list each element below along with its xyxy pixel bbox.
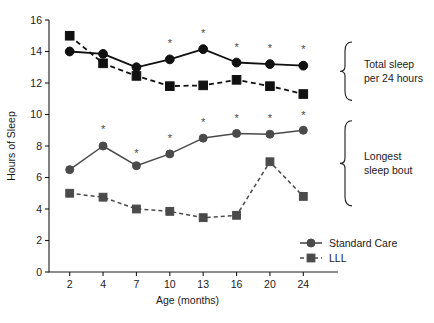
significance-asterisk: * bbox=[134, 147, 139, 159]
legend-item-lll: LLL bbox=[300, 252, 347, 264]
data-point-circle bbox=[307, 239, 315, 247]
longest-bout-brace bbox=[340, 121, 352, 206]
x-tick-label: 10 bbox=[164, 278, 176, 290]
significance-asterisk: * bbox=[301, 109, 306, 121]
data-point-circle bbox=[132, 162, 140, 170]
data-point-circle bbox=[65, 47, 74, 56]
data-point-circle bbox=[66, 166, 74, 174]
significance-asterisk: * bbox=[201, 116, 206, 128]
series-group-longest-bout bbox=[66, 126, 308, 221]
x-tick-label: 13 bbox=[197, 278, 209, 290]
x-tick-label: 20 bbox=[264, 278, 276, 290]
series-line-lll bbox=[70, 162, 304, 218]
y-tick-label: 12 bbox=[30, 77, 42, 89]
significance-asterisk: * bbox=[301, 43, 306, 55]
data-point-square bbox=[133, 205, 141, 213]
data-point-circle bbox=[233, 129, 241, 137]
data-point-square bbox=[199, 81, 208, 90]
total-sleep-label-line2: per 24 hours bbox=[364, 72, 423, 84]
total-sleep-brace bbox=[340, 42, 352, 100]
y-axis-title: Hours of Sleep bbox=[5, 111, 17, 181]
total-sleep-label-line1: Total sleep bbox=[364, 58, 414, 70]
y-tick-label: 10 bbox=[30, 108, 42, 120]
data-point-circle bbox=[166, 150, 174, 158]
data-point-square bbox=[65, 31, 74, 40]
data-point-square bbox=[233, 211, 241, 219]
data-point-circle bbox=[266, 130, 274, 138]
data-point-square bbox=[99, 193, 107, 201]
significance-asterisk: * bbox=[168, 132, 173, 144]
x-axis-title: Age (months) bbox=[156, 294, 219, 306]
x-tick-label: 16 bbox=[231, 278, 243, 290]
data-point-square bbox=[266, 158, 274, 166]
longest-bout-label-line1: Longest bbox=[364, 150, 401, 162]
y-tick-label: 8 bbox=[36, 140, 42, 152]
data-point-square bbox=[199, 214, 207, 222]
legend-item-standard-care: Standard Care bbox=[300, 237, 397, 249]
data-point-circle bbox=[299, 126, 307, 134]
significance-asterisk: * bbox=[168, 37, 173, 49]
data-point-circle bbox=[132, 63, 141, 72]
data-point-circle bbox=[99, 49, 108, 58]
data-point-circle bbox=[266, 60, 275, 69]
data-point-square bbox=[99, 59, 108, 68]
data-point-square bbox=[299, 193, 307, 201]
significance-asterisk: * bbox=[234, 41, 239, 53]
legend-label: LLL bbox=[329, 252, 347, 264]
data-point-square bbox=[66, 189, 74, 197]
y-tick-label: 4 bbox=[36, 203, 42, 215]
x-tick-label: 4 bbox=[100, 278, 106, 290]
data-point-square bbox=[166, 82, 175, 91]
x-tick-label: 24 bbox=[297, 278, 309, 290]
data-point-circle bbox=[165, 55, 174, 64]
y-tick-label: 14 bbox=[30, 45, 42, 57]
data-point-circle bbox=[99, 142, 107, 150]
significance-asterisk: * bbox=[101, 123, 106, 135]
data-point-square bbox=[307, 254, 315, 262]
data-point-circle bbox=[232, 58, 241, 67]
x-tick-label: 2 bbox=[67, 278, 73, 290]
data-point-square bbox=[166, 207, 174, 215]
data-point-square bbox=[299, 90, 308, 99]
legend-label: Standard Care bbox=[329, 237, 397, 249]
data-point-square bbox=[266, 82, 275, 91]
y-tick-label: 16 bbox=[30, 14, 42, 26]
data-point-square bbox=[132, 72, 141, 81]
data-point-square bbox=[232, 76, 241, 85]
longest-bout-label-line2: sleep bout bbox=[364, 164, 413, 176]
significance-asterisk: * bbox=[234, 112, 239, 124]
y-tick-label: 2 bbox=[36, 234, 42, 246]
significance-asterisk: * bbox=[268, 112, 273, 124]
significance-asterisk: * bbox=[201, 27, 206, 39]
chart-figure: 02468101214162471013162024Age (months)Ho… bbox=[0, 0, 434, 323]
x-tick-label: 7 bbox=[134, 278, 140, 290]
data-point-circle bbox=[199, 134, 207, 142]
y-tick-label: 6 bbox=[36, 171, 42, 183]
axis-lines bbox=[49, 20, 338, 272]
sleep-line-chart: 02468101214162471013162024Age (months)Ho… bbox=[0, 0, 434, 323]
significance-asterisk: * bbox=[268, 42, 273, 54]
data-point-circle bbox=[199, 45, 208, 54]
data-point-circle bbox=[299, 61, 308, 70]
y-tick-label: 0 bbox=[36, 266, 42, 278]
